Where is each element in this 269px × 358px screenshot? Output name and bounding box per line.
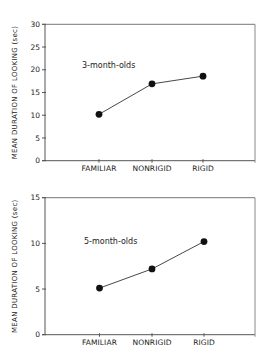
x-category-label: NONRIGID	[132, 338, 171, 347]
y-axis-title: MEAN DURATION OF LOOKING (sec)	[11, 199, 19, 333]
series-annotation: 5-month-olds	[84, 237, 137, 246]
data-point-marker	[201, 238, 208, 245]
data-point-marker	[200, 73, 207, 80]
y-tick-label: 0	[35, 156, 40, 165]
x-category-label: NONRIGID	[132, 164, 171, 173]
y-tick-label: 25	[30, 43, 40, 52]
chart-panel-3-month: 051015202530MEAN DURATION OF LOOKING (se…	[0, 0, 269, 180]
y-tick-label: 10	[30, 239, 40, 248]
y-tick-label: 20	[30, 65, 40, 74]
y-tick-label: 30	[30, 20, 40, 29]
data-line	[100, 242, 205, 289]
chart-panel-5-month: 051015MEAN DURATION OF LOOKING (sec)FAMI…	[0, 180, 269, 358]
x-category-label: FAMILIAR	[82, 338, 117, 347]
line-chart-5-month-olds: 051015MEAN DURATION OF LOOKING (sec)FAMI…	[0, 180, 269, 358]
data-point-marker	[96, 285, 103, 292]
y-axis-title: MEAN DURATION OF LOOKING (sec)	[11, 26, 19, 160]
data-point-marker	[149, 80, 156, 87]
line-chart-3-month-olds: 051015202530MEAN DURATION OF LOOKING (se…	[0, 0, 269, 180]
y-tick-label: 10	[30, 111, 40, 120]
data-point-marker	[96, 111, 103, 118]
y-tick-label: 15	[30, 88, 40, 97]
y-tick-label: 5	[35, 134, 40, 143]
y-tick-label: 0	[35, 330, 40, 339]
data-point-marker	[149, 266, 156, 273]
y-tick-label: 15	[30, 193, 40, 202]
x-category-label: RIGID	[193, 338, 215, 347]
x-category-label: FAMILIAR	[82, 164, 117, 173]
x-category-label: RIGID	[192, 164, 214, 173]
y-tick-label: 5	[35, 285, 40, 294]
series-annotation: 3-month-olds	[82, 61, 135, 70]
